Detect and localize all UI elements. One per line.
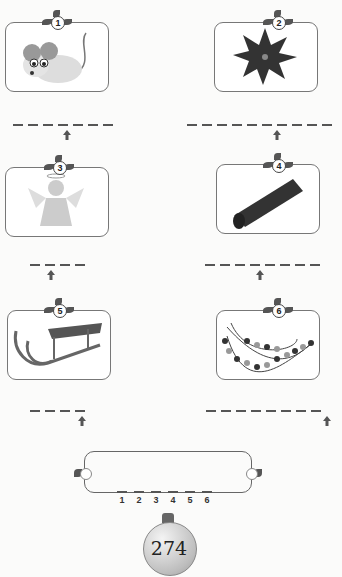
answer-blanks-4 — [205, 264, 320, 266]
number-badge-6: 6 — [263, 301, 293, 317]
holly-left-icon — [74, 466, 92, 480]
picture-card-2 — [214, 22, 318, 92]
holly-right-icon — [244, 466, 262, 480]
arrow-up-icon — [47, 270, 55, 280]
arrow-up-icon — [256, 270, 264, 280]
number-badge-2: 2 — [263, 13, 293, 29]
cinnamon-stick-image — [217, 165, 317, 231]
angel-image — [6, 168, 106, 234]
answer-slot-1[interactable]: 1 — [117, 491, 127, 505]
answer-slot-3[interactable]: 3 — [151, 491, 161, 505]
number-badge-1: 1 — [42, 13, 72, 29]
picture-card-5 — [7, 310, 111, 380]
picture-card-6 — [216, 310, 320, 380]
poinsettia-image — [215, 23, 315, 89]
picture-card-1 — [5, 22, 109, 92]
number-badge-4: 4 — [263, 156, 293, 172]
answer-slot-6[interactable]: 6 — [202, 491, 212, 505]
final-answer-slots: 1 2 3 4 5 6 — [117, 491, 212, 505]
arrow-up-icon — [273, 130, 281, 140]
number-badge-5: 5 — [44, 301, 74, 317]
picture-card-4 — [216, 164, 320, 234]
sled-image — [8, 311, 108, 377]
answer-blanks-2 — [187, 124, 332, 126]
answer-slot-2[interactable]: 2 — [134, 491, 144, 505]
arrow-up-icon — [323, 416, 331, 426]
answer-slot-5[interactable]: 5 — [185, 491, 195, 505]
garland-image — [217, 311, 317, 377]
answer-blanks-6 — [206, 410, 321, 412]
picture-card-3 — [5, 167, 109, 237]
answer-slot-4[interactable]: 4 — [168, 491, 178, 505]
answer-blanks-3 — [30, 264, 85, 266]
number-badge-3: 3 — [44, 158, 74, 174]
mouse-image — [6, 23, 106, 89]
final-answer-box — [84, 451, 252, 493]
answer-blanks-1 — [13, 124, 113, 126]
answer-blanks-5 — [30, 410, 85, 412]
arrow-up-icon — [63, 130, 71, 140]
page-number: 274 — [143, 537, 195, 559]
arrow-up-icon — [78, 416, 86, 426]
